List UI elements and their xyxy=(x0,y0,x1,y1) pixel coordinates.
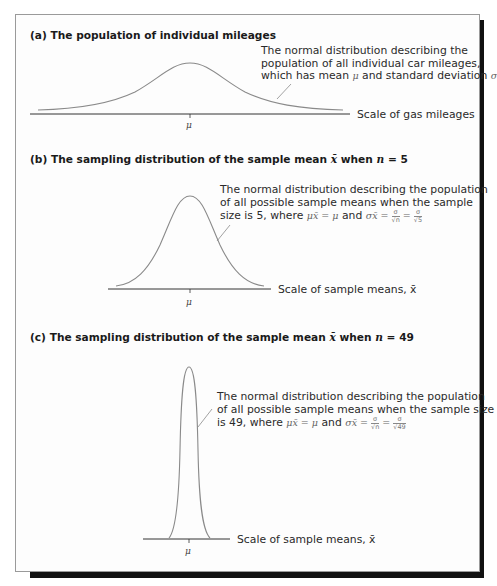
panel-a-axis-label: Scale of gas mileages xyxy=(357,108,475,121)
fraction-sigma-over-root-5: σ√5 xyxy=(414,209,422,223)
panel-b-mu-label: μ xyxy=(186,297,192,307)
panel-c-mu-label: μ xyxy=(185,546,191,556)
panel-a-mu-label: μ xyxy=(186,120,192,130)
sigma-xbar-symbol: σx̄ xyxy=(366,210,378,221)
panel-b-axis-label: Scale of sample means, x̄ xyxy=(278,283,417,296)
panel-b-heading: (b) The sampling distribution of the sam… xyxy=(30,153,408,165)
panel-b-leader-line xyxy=(217,225,230,241)
panel-a-annotation: The normal distribution describing the p… xyxy=(261,45,497,83)
panel-b-annotation-line-2: of all possible sample means when the sa… xyxy=(220,197,488,210)
panel-c-normal-curve xyxy=(169,367,210,538)
fraction-sigma-over-root-49: σ√49 xyxy=(393,416,405,430)
panel-b-annotation-line-1: The normal distribution describing the p… xyxy=(220,184,488,197)
mu-xbar-symbol: μx̄ xyxy=(307,210,319,221)
panel-b-annotation: The normal distribution describing the p… xyxy=(220,184,488,223)
panel-c-axis-label: Scale of sample means, x̄ xyxy=(237,533,376,546)
fraction-sigma-over-root-n: σ√n xyxy=(392,209,400,223)
mu-xbar-symbol: μx̄ xyxy=(286,417,298,428)
sigma-xbar-symbol: σx̄ xyxy=(345,417,357,428)
panel-c-annotation-line-1: The normal distribution describing the p… xyxy=(217,391,494,404)
panel-a-leader-line xyxy=(277,84,291,99)
sigma-symbol: σ xyxy=(491,70,497,81)
panel-a-heading: (a) The population of individual mileage… xyxy=(30,29,276,41)
panel-a-annotation-line-3: which has mean μ and standard deviation … xyxy=(261,70,497,83)
panel-c-leader-line xyxy=(198,409,212,427)
panel-c-annotation-line-3: is 49, where μx̄ = μ and σx̄ = σ√n = σ√4… xyxy=(217,416,494,430)
panel-c-annotation: The normal distribution describing the p… xyxy=(217,391,494,430)
panel-b-annotation-line-3: size is 5, where μx̄ = μ and σx̄ = σ√n =… xyxy=(220,209,488,223)
panel-a-annotation-line-1: The normal distribution describing the xyxy=(261,45,497,58)
panel-c-annotation-line-2: of all possible sample means when the sa… xyxy=(217,404,494,417)
panel-c-heading: (c) The sampling distribution of the sam… xyxy=(30,331,414,343)
